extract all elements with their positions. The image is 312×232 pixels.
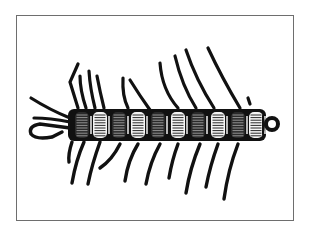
leg-shape xyxy=(88,142,100,184)
hook-bend-shape xyxy=(30,124,70,138)
leg-shape xyxy=(72,142,84,183)
leg-shape xyxy=(186,144,200,193)
leg-shape xyxy=(208,48,240,108)
body-segment xyxy=(93,112,109,138)
hook-eye-shape xyxy=(266,118,278,130)
tail-fiber-shape xyxy=(34,118,70,122)
leg-shape xyxy=(70,64,78,108)
leg-shape xyxy=(123,78,128,108)
tail-fiber-shape xyxy=(31,98,70,118)
fly-tail-fibers xyxy=(31,98,70,122)
body-segment xyxy=(151,112,167,138)
leg-shape xyxy=(100,144,120,168)
leg-shape xyxy=(146,144,160,184)
leg-shape xyxy=(97,76,104,108)
body-segment xyxy=(112,112,128,138)
body-segment xyxy=(191,112,207,138)
body-segment xyxy=(171,112,187,138)
body-segment xyxy=(231,112,247,138)
leg-shape xyxy=(89,71,95,108)
leg-shape xyxy=(169,144,178,178)
leg-shape xyxy=(206,144,218,187)
leg-shape xyxy=(130,80,150,110)
leg-shape xyxy=(80,76,86,108)
body-segment xyxy=(75,112,91,138)
body-segment xyxy=(211,112,227,138)
fly-body xyxy=(68,109,266,141)
fly-legs-top xyxy=(70,48,250,110)
leg-shape xyxy=(175,56,196,108)
leg-shape xyxy=(224,144,238,199)
leg-shape xyxy=(69,142,72,162)
leg-shape xyxy=(248,98,250,104)
leg-shape xyxy=(125,144,138,181)
leg-shape xyxy=(160,63,178,108)
fly-legs-bottom xyxy=(69,142,238,199)
fishing-fly-illustration xyxy=(0,0,312,232)
body-segment xyxy=(131,112,147,138)
